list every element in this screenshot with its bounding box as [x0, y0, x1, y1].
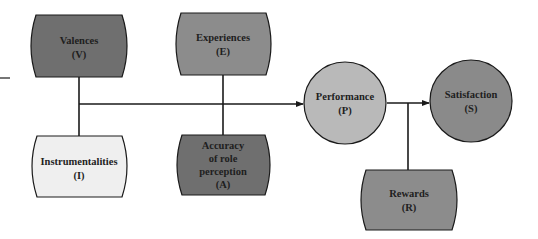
- accuracy-abbr: (A): [216, 179, 231, 191]
- performance-label: Performance: [316, 91, 375, 102]
- satisfaction-abbr: (S): [465, 103, 478, 115]
- node-valences: Valences (V): [31, 15, 127, 77]
- instrumentalities-abbr: (I): [73, 170, 85, 182]
- valences-label: Valences: [60, 35, 99, 46]
- accuracy-line3: perception: [199, 166, 247, 177]
- valences-abbr: (V): [72, 49, 87, 61]
- node-satisfaction: Satisfaction (S): [430, 60, 512, 142]
- node-experiences: Experiences (E): [176, 13, 271, 75]
- rewards-label: Rewards: [389, 188, 429, 199]
- experiences-abbr: (E): [216, 46, 231, 58]
- expectancy-diagram: Valences (V) Experiences (E) Instrumenta…: [0, 0, 538, 239]
- node-rewards: Rewards (R): [361, 170, 457, 230]
- satisfaction-label: Satisfaction: [445, 89, 498, 100]
- node-instrumentalities: Instrumentalities (I): [32, 136, 127, 197]
- experiences-label: Experiences: [196, 32, 250, 43]
- node-accuracy: Accuracy of role perception (A): [177, 135, 270, 195]
- instrumentalities-label: Instrumentalities: [41, 156, 118, 167]
- accuracy-line1: Accuracy: [202, 140, 245, 151]
- performance-abbr: (P): [338, 105, 352, 117]
- rewards-abbr: (R): [402, 202, 417, 214]
- accuracy-line2: of role: [209, 153, 238, 164]
- node-performance: Performance (P): [304, 62, 386, 144]
